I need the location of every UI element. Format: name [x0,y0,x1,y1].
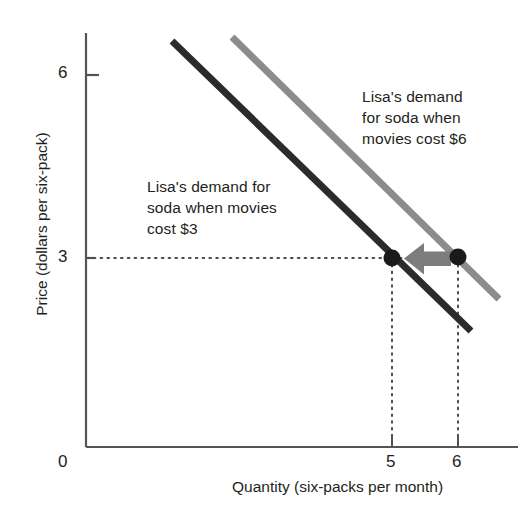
x-tick-label-5: 5 [386,452,395,472]
left-annotation-line-2: soda when movies [147,197,277,218]
y-axis-title: Price (dollars per six-pack) [33,109,51,339]
y-tick-label-6: 6 [58,63,67,83]
left-annotation-line-1: Lisa's demand for [147,176,277,197]
left-annotation-line-3: cost $3 [147,218,277,239]
demand-shift-chart: 6 3 0 5 6 Quantity (six-packs per month)… [0,0,528,519]
right-demand-annotation: Lisa's demand for soda when movies cost … [362,86,467,149]
chart-canvas [0,0,528,519]
x-axis-title: Quantity (six-packs per month) [232,478,443,496]
x-tick-label-6: 6 [452,452,461,472]
right-annotation-line-1: Lisa's demand [362,86,467,107]
point-on-gray-demand [450,249,467,266]
point-on-dark-demand [384,250,401,267]
left-demand-annotation: Lisa's demand for soda when movies cost … [147,176,277,239]
origin-label: 0 [58,452,67,472]
right-annotation-line-2: for soda when [362,107,467,128]
y-tick-label-3: 3 [58,247,67,267]
right-annotation-line-3: movies cost $6 [362,128,467,149]
